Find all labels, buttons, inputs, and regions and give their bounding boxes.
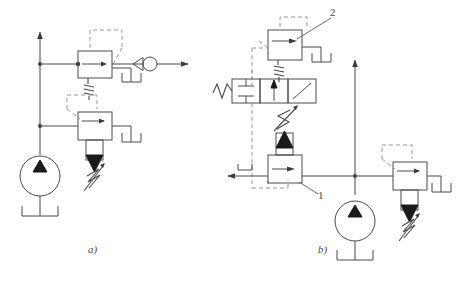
panel-a bbox=[20, 30, 188, 216]
check-valve-a bbox=[112, 57, 188, 71]
caption-panel-b: b) bbox=[318, 243, 327, 255]
callout-2: 2 bbox=[330, 6, 336, 18]
schematic-svg bbox=[0, 0, 457, 289]
pilot-valve-a-upper bbox=[40, 30, 141, 100]
relief-valve-a bbox=[40, 95, 141, 191]
solenoid-coil-icon bbox=[213, 84, 232, 98]
directional-control-valve-b bbox=[213, 70, 316, 188]
caption-panel-a: a) bbox=[88, 243, 97, 255]
pump-b bbox=[335, 201, 375, 260]
panel-a-supply-line bbox=[38, 32, 42, 155]
panel-b-supply-line bbox=[353, 60, 357, 195]
tank-b-stub bbox=[238, 164, 252, 170]
sequence-valve-b-1 bbox=[228, 105, 355, 194]
panel-b bbox=[213, 17, 451, 260]
relief-valve-b bbox=[355, 145, 451, 241]
pump-a bbox=[20, 156, 60, 216]
figure-canvas: 2 1 a) b) bbox=[0, 0, 457, 289]
callout-1: 1 bbox=[318, 189, 324, 201]
pilot-valve-b-2 bbox=[252, 17, 331, 85]
